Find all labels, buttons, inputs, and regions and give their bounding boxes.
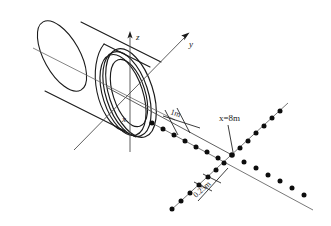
dimension-1m-group [163,108,200,135]
probe-dots-upper-right-arm [238,109,283,151]
dim-1m-bar [163,116,200,128]
probe-dot [194,145,199,150]
probe-dot [254,131,259,136]
figure-container: z y x [0,0,331,226]
probe-dot [262,124,267,129]
station-callout-label: x=8m [219,113,240,123]
cylinder-far-end-ellipse [27,13,96,99]
flange-ring-third [91,49,155,141]
probe-dot [170,207,175,212]
cylinder-top-generator [81,22,161,62]
probe-dot [179,199,184,204]
probe-dot [278,179,283,184]
probe-dot [183,139,188,144]
probe-dot [270,116,275,121]
dimension-1m-label: 1m [169,107,182,119]
probe-dot [238,146,243,151]
probe-dot [172,133,177,138]
probe-dot [216,156,221,161]
flange-rings-group [91,42,166,143]
probe-dots-lower-right-arm [242,160,307,198]
x-axis-label: x [121,114,126,124]
nozzle-body-group [27,13,161,137]
probe-dot [214,168,219,173]
probe-dot [254,166,259,171]
probe-dot [222,161,227,166]
probe-dot [242,160,247,165]
probe-dot [302,193,307,198]
station-callout-leader [228,125,233,152]
probe-dot [150,121,155,126]
z-axis-label: z [135,32,140,42]
probe-dot [278,109,283,114]
nozzle-measurement-diagram: z y x [0,0,331,226]
flange-ring-inner [103,55,155,131]
probe-dot [161,127,166,132]
probe-dot [290,186,295,191]
y-axis-label: y [188,39,193,49]
probe-dot-intersection [229,152,235,158]
probe-dot [266,173,271,178]
probe-dot [246,139,251,144]
probe-dot [205,150,210,155]
station-callout-group: x=8m [219,113,240,152]
